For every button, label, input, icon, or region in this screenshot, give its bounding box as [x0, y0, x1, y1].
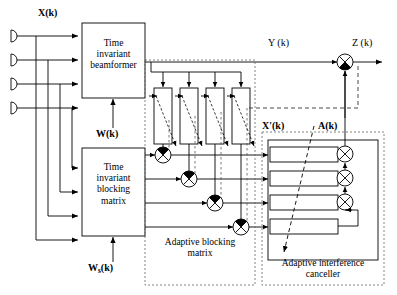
canceller-coeff-label: A(k)	[318, 121, 337, 132]
bm-weight-main: W	[88, 262, 98, 273]
feedback-dashed-main	[247, 66, 358, 108]
bm-weight-tail: (k)	[101, 262, 113, 273]
input-signal-label: X(k)	[38, 8, 57, 19]
antenna-icon-4	[11, 102, 78, 114]
canceller-filter-3	[270, 195, 338, 210]
antenna-icon-2	[11, 54, 78, 66]
antenna-icon-1	[11, 30, 78, 42]
adaptive-blocking-feed-bus	[151, 62, 241, 87]
blocking-matrix-weight-label: Ws(k)	[88, 263, 113, 276]
adaptive-blocking-group-label: Adaptive blocking matrix	[150, 237, 250, 259]
beamformer-weight-label: W(k)	[96, 129, 118, 140]
canceller-input-label: X′(k)	[262, 121, 284, 132]
antenna-icon-3	[11, 78, 78, 90]
adaptive-canceller-group-label: Adaptive interference canceller	[264, 258, 382, 280]
blocking-subtractor-3	[207, 195, 268, 211]
beamformer-label: Time invariant beamformer	[82, 38, 145, 72]
canceller-filter-1	[270, 147, 338, 162]
canceller-filter-2	[270, 171, 338, 186]
beamformer-output-label: Y (k)	[268, 38, 289, 49]
blocking-subtractor-1	[155, 147, 268, 163]
antenna-tap-lines	[36, 36, 78, 240]
blocking-matrix-label: Time invariant blocking matrix	[82, 162, 145, 207]
diagram-canvas: X(k) Time invariant beamformer W(k) Time…	[0, 0, 397, 295]
canceller-filter-4	[270, 219, 338, 234]
system-output-label: Z (k)	[352, 38, 372, 49]
blocking-subtractor-4	[233, 219, 268, 235]
canceller-summer-chain	[337, 71, 358, 226]
